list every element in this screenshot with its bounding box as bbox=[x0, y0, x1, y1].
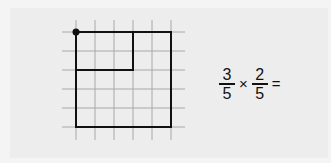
numerator: 3 bbox=[221, 67, 234, 82]
denominator: 5 bbox=[253, 86, 266, 101]
equals-sign: = bbox=[272, 75, 281, 92]
fraction-2: 2 5 bbox=[252, 67, 268, 101]
corner-dot-icon bbox=[73, 29, 80, 36]
fraction-1: 3 5 bbox=[219, 67, 235, 101]
outer-rectangle bbox=[76, 32, 171, 127]
multiply-sign: × bbox=[239, 75, 248, 92]
denominator: 5 bbox=[221, 86, 234, 101]
grid-lines bbox=[62, 20, 185, 140]
fraction-equation: 3 5 × 2 5 = bbox=[218, 67, 284, 101]
numerator: 2 bbox=[253, 67, 266, 82]
